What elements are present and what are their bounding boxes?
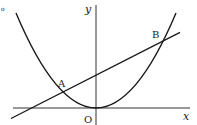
x-axis-label: x bbox=[183, 110, 190, 123]
y-axis-label: y bbox=[84, 3, 92, 16]
corner-mark: o bbox=[1, 5, 5, 12]
graph-canvas: y x O A B o bbox=[0, 0, 197, 125]
point-b-label: B bbox=[152, 29, 159, 40]
origin-label: O bbox=[84, 114, 92, 125]
point-a-label: A bbox=[57, 78, 66, 89]
